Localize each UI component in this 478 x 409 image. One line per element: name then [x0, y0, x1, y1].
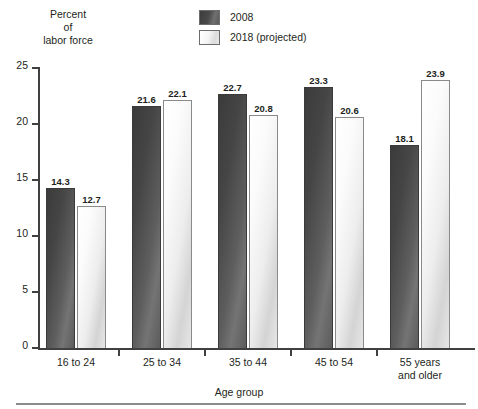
- bar-value-label: 23.9: [426, 68, 445, 79]
- x-category-label: 25 to 34: [112, 356, 212, 369]
- x-category-label: 16 to 24: [26, 356, 126, 369]
- bar-value-label: 12.7: [82, 194, 101, 205]
- x-tick-separator-3: [290, 348, 292, 356]
- y-tick-20: 20: [32, 123, 39, 125]
- y-tick-label-20: 20: [16, 115, 28, 127]
- x-axis-title: Age group: [0, 386, 478, 398]
- chart-legend: 2008 2018 (projected): [199, 7, 306, 47]
- y-tick-label-0: 0: [22, 339, 28, 351]
- y-tick-label-5: 5: [22, 283, 28, 295]
- x-category-label: 45 to 54: [284, 356, 384, 369]
- x-category-label: 55 years and older: [370, 356, 470, 382]
- legend-label-2008: 2008: [230, 11, 253, 23]
- bar: 18.1: [390, 145, 419, 348]
- legend-label-2018: 2018 (projected): [230, 31, 306, 43]
- bar-value-label: 23.3: [309, 75, 328, 86]
- x-tick-separator-4: [376, 348, 378, 356]
- bar: 22.7: [218, 94, 247, 348]
- bar: 23.3: [304, 87, 333, 348]
- plot-area: 0510152025 14.312.721.622.122.720.823.32…: [38, 68, 475, 348]
- y-axis-line: [38, 67, 40, 349]
- y-tick-15: 15: [32, 179, 39, 181]
- y-axis-title: Percent of labor force: [16, 8, 120, 47]
- bar: 12.7: [77, 206, 106, 348]
- legend-item-2018: 2018 (projected): [199, 27, 306, 47]
- bar-value-label: 21.6: [137, 94, 156, 105]
- bar-value-label: 18.1: [395, 133, 414, 144]
- x-category-label: 35 to 44: [198, 356, 298, 369]
- legend-swatch-2018: [199, 30, 220, 45]
- bar-value-label: 22.1: [168, 88, 187, 99]
- legend-swatch-2008: [199, 10, 220, 25]
- bar-value-label: 20.8: [254, 103, 273, 114]
- y-tick-0: 0: [32, 347, 39, 349]
- bar: 21.6: [132, 106, 161, 348]
- x-tick-separator-1: [118, 348, 120, 356]
- x-tick-separator-2: [204, 348, 206, 356]
- bar: 20.8: [249, 115, 278, 348]
- bottom-divider: [16, 403, 466, 405]
- y-tick-10: 10: [32, 235, 39, 237]
- bar-value-label: 22.7: [223, 82, 242, 93]
- y-tick-label-25: 25: [16, 59, 28, 71]
- y-tick-5: 5: [32, 291, 39, 293]
- y-tick-label-10: 10: [16, 227, 28, 239]
- chart-figure: Percent of labor force 2008 2018 (projec…: [0, 0, 478, 409]
- bar: 23.9: [421, 80, 450, 348]
- y-tick-label-15: 15: [16, 171, 28, 183]
- bar-value-label: 14.3: [51, 176, 70, 187]
- bar-value-label: 20.6: [340, 105, 359, 116]
- x-axis-line: [38, 348, 475, 350]
- bar: 22.1: [163, 100, 192, 348]
- bar: 14.3: [46, 188, 75, 348]
- y-tick-25: 25: [32, 67, 39, 69]
- legend-item-2008: 2008: [199, 7, 306, 27]
- bar: 20.6: [335, 117, 364, 348]
